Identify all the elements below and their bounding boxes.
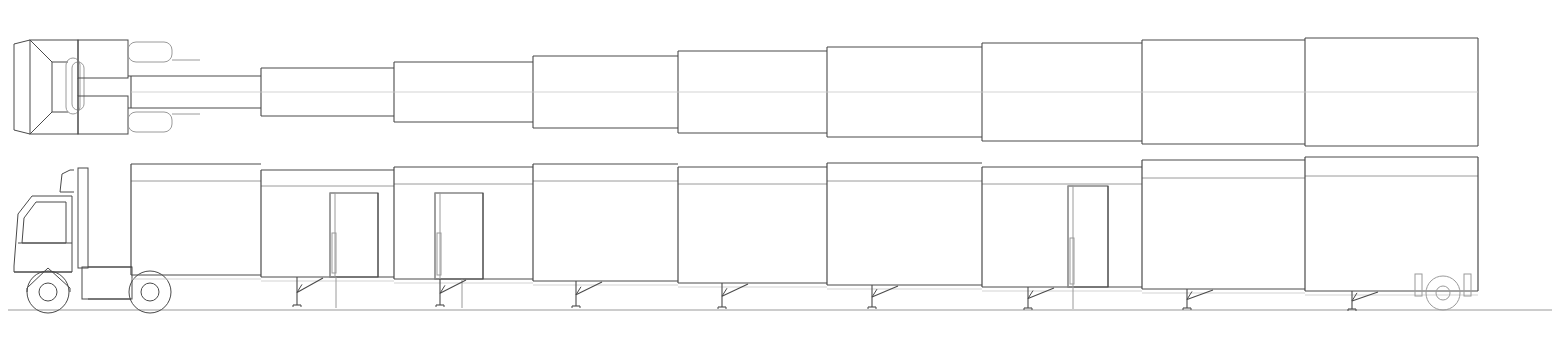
cad-drawing-svg: [0, 0, 1560, 339]
technical-drawing-canvas: [0, 0, 1560, 339]
